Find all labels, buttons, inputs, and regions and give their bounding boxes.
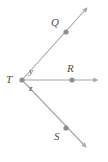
- point-t: [19, 77, 24, 82]
- point-s: [63, 125, 68, 130]
- point-q: [63, 29, 68, 34]
- angle-label-z: z: [29, 84, 33, 93]
- point-r: [69, 77, 74, 82]
- point-label-s: S: [54, 131, 60, 142]
- point-label-q: Q: [51, 17, 59, 28]
- geometry-figure: T Q R S y z: [0, 0, 108, 162]
- angle-label-y: y: [29, 67, 33, 76]
- point-label-t: T: [6, 74, 12, 85]
- point-label-r: R: [67, 63, 74, 74]
